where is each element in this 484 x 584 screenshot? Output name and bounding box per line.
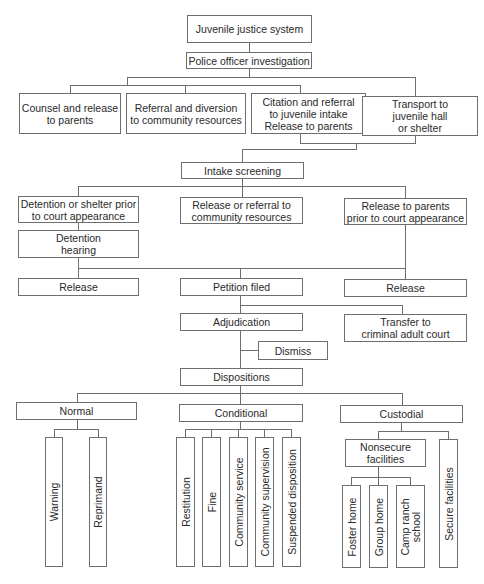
node-detention-or-shelter: Detention or shelter prior to court appe… (18, 196, 139, 223)
node-normal: Normal (16, 402, 137, 420)
connector (240, 305, 403, 306)
connector (378, 431, 449, 432)
connector (242, 186, 243, 197)
node-restitution: Restitution (176, 437, 195, 567)
connector (401, 423, 402, 431)
connector (78, 222, 79, 230)
node-dismiss: Dismiss (258, 341, 328, 360)
node-camp-ranch-school: Camp ranch school (396, 485, 425, 568)
connector (78, 186, 79, 196)
node-custodial: Custodial (340, 405, 463, 423)
node-release-or-referral: Release or referral to community resourc… (180, 197, 303, 224)
node-community-service-label: Community service (233, 457, 244, 546)
node-warning: Warning (45, 437, 63, 567)
connector (242, 149, 357, 150)
node-reprimand-label: Reprimand (93, 476, 104, 527)
node-citation-and-referral: Citation and referral to juvenile intake… (251, 93, 366, 134)
connector (54, 429, 99, 430)
node-group-home-label: Group home (373, 497, 384, 555)
node-referral-and-diversion: Referral and diversion to community reso… (126, 93, 246, 134)
connector (77, 393, 78, 402)
node-release-left: Release (18, 278, 139, 296)
connector (249, 43, 250, 52)
node-warning-label: Warning (49, 483, 60, 522)
node-fine: Fine (202, 437, 221, 567)
connector (185, 85, 186, 93)
node-camp-ranch-school-label: Camp ranch school (400, 498, 422, 555)
node-dispositions: Dispositions (180, 368, 303, 386)
connector (291, 429, 292, 437)
connector (415, 135, 416, 143)
connector (300, 133, 301, 143)
node-reprimand: Reprimand (89, 437, 107, 567)
connector (240, 350, 258, 351)
connector (98, 429, 99, 437)
connector (402, 393, 403, 405)
node-restitution-label: Restitution (180, 477, 191, 527)
connector (249, 69, 250, 77)
connector (402, 305, 403, 314)
node-release-right: Release (344, 279, 467, 297)
node-petition-filed: Petition filed (180, 278, 303, 296)
node-conditional: Conditional (179, 404, 303, 422)
connector (351, 477, 352, 485)
connector (127, 77, 128, 85)
node-release-to-parents: Release to parents prior to court appear… (344, 198, 467, 225)
connector (300, 85, 301, 93)
connector (77, 393, 403, 394)
connector (185, 429, 186, 437)
connector (264, 429, 265, 437)
connector (378, 431, 379, 439)
connector (351, 477, 411, 478)
node-detention-hearing: Detention hearing (18, 230, 139, 258)
connector (410, 477, 411, 485)
node-community-service: Community service (229, 437, 248, 567)
connector (405, 186, 406, 198)
connector (242, 149, 243, 162)
node-secure-facilities-label: Secure facilities (443, 467, 454, 541)
node-suspended-disposition-label: Suspended disposition (286, 449, 297, 555)
node-community-supervision-label: Community supervision (259, 447, 270, 556)
connector (448, 431, 449, 439)
node-foster-home: Foster home (342, 485, 361, 568)
connector (242, 178, 243, 186)
node-suspended-disposition: Suspended disposition (282, 437, 301, 567)
connector (238, 429, 239, 437)
node-transfer-to-adult-court: Transfer to criminal adult court (344, 314, 467, 342)
connector (415, 77, 416, 96)
connector (240, 386, 241, 404)
node-nonsecure-facilities: Nonsecure facilities (345, 439, 426, 467)
connector (77, 420, 78, 429)
juvenile-justice-flowchart: Juvenile justice system Police officer i… (0, 0, 484, 584)
connector (240, 268, 241, 278)
connector (78, 268, 405, 269)
connector (54, 429, 55, 437)
connector (378, 466, 379, 477)
connector (300, 143, 416, 144)
node-juvenile-justice-system: Juvenile justice system (187, 15, 312, 43)
node-adjudication: Adjudication (180, 313, 303, 331)
node-fine-label: Fine (206, 492, 217, 512)
connector (240, 421, 241, 429)
connector (127, 77, 416, 78)
connector (211, 429, 212, 437)
node-transport-to-juvenile-hall: Transport to juvenile hall or shelter (362, 96, 478, 136)
node-foster-home-label: Foster home (346, 497, 357, 556)
connector (378, 477, 379, 485)
connector (70, 85, 71, 93)
node-police-officer-investigation: Police officer investigation (186, 52, 312, 69)
node-secure-facilities: Secure facilities (439, 439, 458, 568)
node-counsel-and-release: Counsel and release to parents (19, 93, 121, 134)
node-intake-screening: Intake screening (181, 162, 304, 179)
node-community-supervision: Community supervision (255, 437, 274, 567)
node-group-home: Group home (369, 485, 388, 568)
connector (405, 224, 406, 279)
